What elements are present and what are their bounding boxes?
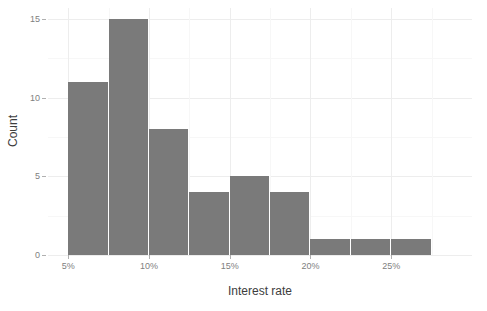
x-axis-tick-label: 10% xyxy=(140,262,158,271)
histogram-bar xyxy=(230,176,270,255)
y-axis-tick-label: 10 xyxy=(30,94,40,103)
y-axis-tick-mark xyxy=(42,98,46,99)
y-axis-tick-mark xyxy=(42,176,46,177)
histogram-bar xyxy=(189,192,229,255)
histogram-bar xyxy=(270,192,310,255)
histogram-bar xyxy=(351,239,391,255)
x-axis-tick-label: 20% xyxy=(301,262,319,271)
y-axis-tick-label: 5 xyxy=(35,172,40,181)
y-axis-tick-mark xyxy=(42,255,46,256)
x-axis-tick-labels: 5%10%15%20%25% xyxy=(48,259,472,273)
y-axis-tick-mark xyxy=(42,19,46,20)
x-axis-tick-mark xyxy=(230,255,231,259)
histogram-figure: 051015 5%10%15%20%25% Interest rate Coun… xyxy=(0,0,487,311)
x-axis-tick-label: 15% xyxy=(221,262,239,271)
x-axis-tick-mark xyxy=(391,255,392,259)
bar-series xyxy=(48,8,472,255)
y-axis-title: Count xyxy=(6,71,20,191)
x-axis-tick-mark xyxy=(68,255,69,259)
plot-panel xyxy=(48,8,472,255)
histogram-bar xyxy=(109,19,149,255)
y-axis-tick-label: 15 xyxy=(30,15,40,24)
x-axis-tick-label: 25% xyxy=(382,262,400,271)
gridline-major-horizontal xyxy=(48,255,472,256)
x-axis-tick-label: 5% xyxy=(62,262,75,271)
histogram-bar xyxy=(391,239,431,255)
histogram-bar xyxy=(310,239,350,255)
histogram-bar xyxy=(68,82,108,255)
y-axis-tick-label: 0 xyxy=(35,251,40,260)
x-axis-tick-mark xyxy=(310,255,311,259)
histogram-bar xyxy=(149,129,189,255)
x-axis-title: Interest rate xyxy=(48,284,472,298)
x-axis-tick-mark xyxy=(149,255,150,259)
